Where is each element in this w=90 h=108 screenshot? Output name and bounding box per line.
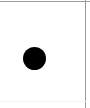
panel-top-border: [0, 1, 90, 2]
plot-area: [0, 2, 85, 101]
panel-right-border: [85, 0, 86, 108]
panel-bottom-border: [0, 101, 86, 102]
figure-canvas: [0, 0, 90, 108]
filled-circle-marker: [23, 47, 46, 70]
